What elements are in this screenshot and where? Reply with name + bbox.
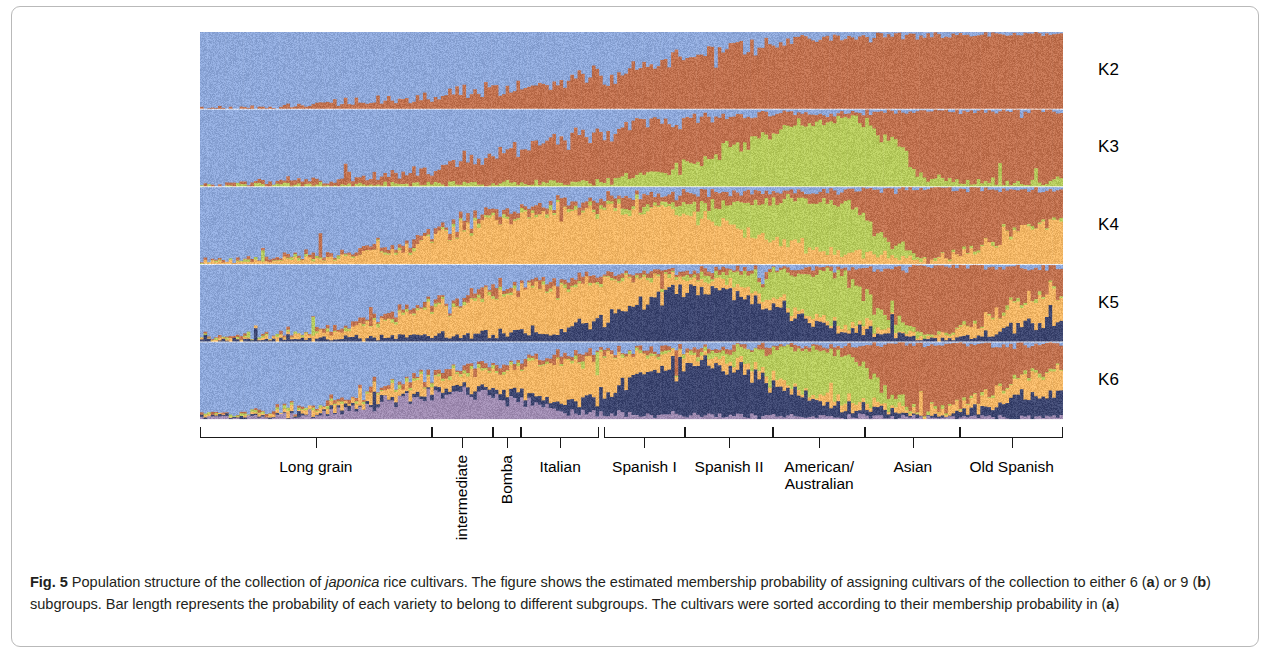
k-label-k4: K4 xyxy=(1098,215,1119,235)
caption-segment: rice cultivars. The figure shows the est… xyxy=(379,574,1146,590)
tick-american-australian xyxy=(819,437,820,448)
k-label-k5: K5 xyxy=(1098,293,1119,313)
caption-segment: b xyxy=(1197,574,1206,590)
structure-plot xyxy=(200,32,1063,420)
group-label-line: Australian xyxy=(709,475,929,492)
k-label-k2: K2 xyxy=(1098,60,1119,80)
tick-bomba xyxy=(507,437,508,448)
caption-segment: a xyxy=(1147,574,1155,590)
tick-intermediate xyxy=(462,437,463,448)
k-label-k6: K6 xyxy=(1098,370,1119,390)
tick-asian xyxy=(913,437,914,448)
tick-italian xyxy=(560,437,561,448)
group-label-line: Old Spanish xyxy=(902,458,1122,475)
tick-spanish-ii xyxy=(729,437,730,448)
tick-spanish-i xyxy=(644,437,645,448)
tick-long-grain xyxy=(316,437,317,448)
group-label-old-spanish: Old Spanish xyxy=(902,458,1122,475)
k-label-k3: K3 xyxy=(1098,137,1119,157)
tick-old-spanish xyxy=(1012,437,1013,448)
caption-segment: ) or 9 ( xyxy=(1155,574,1198,590)
figure-page: K2K3K4K5K6 Long grainintermediateBombaIt… xyxy=(0,0,1267,653)
caption-segment: Population structure of the collection o… xyxy=(68,574,325,590)
figure-caption: Fig. 5 Population structure of the colle… xyxy=(30,571,1242,615)
group-label-line: Long grain xyxy=(206,458,426,475)
caption-segment: japonica xyxy=(325,574,379,590)
caption-segment: ) xyxy=(1114,596,1119,612)
caption-segment: Fig. 5 xyxy=(30,574,68,590)
structure-plot-canvas xyxy=(200,32,1063,420)
group-bracket-axis xyxy=(200,427,1063,453)
group-label-long-grain: Long grain xyxy=(206,458,426,475)
